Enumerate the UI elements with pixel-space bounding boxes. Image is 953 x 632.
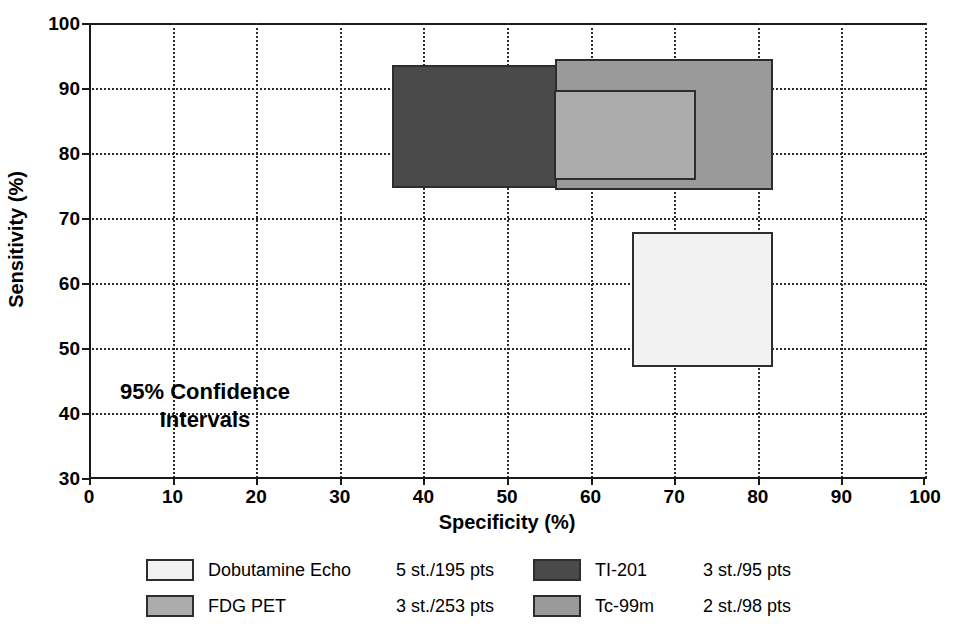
legend-swatch-dobutamine-echo xyxy=(146,559,194,581)
x-tick-10 xyxy=(173,478,175,485)
x-tick-label-80: 80 xyxy=(747,487,768,506)
x-tick-label-40: 40 xyxy=(413,487,434,506)
gridline-x-90 xyxy=(841,23,843,478)
x-tick-30 xyxy=(340,478,342,485)
y-tick-label-90: 90 xyxy=(59,79,80,98)
legend-item-fdg-pet[interactable]: FDG PET 3 st./253 pts xyxy=(146,588,494,624)
y-tick-label-50: 50 xyxy=(59,339,80,358)
x-tick-50 xyxy=(507,478,509,485)
ci-box-dobutamine-echo xyxy=(632,232,772,367)
x-tick-label-30: 30 xyxy=(329,487,350,506)
gridline-y-100 xyxy=(89,23,925,25)
x-tick-label-10: 10 xyxy=(162,487,183,506)
y-tick-70 xyxy=(82,218,89,220)
y-tick-label-70: 70 xyxy=(59,209,80,228)
annotation-line-2: Intervals xyxy=(60,406,350,434)
y-tick-label-80: 80 xyxy=(59,144,80,163)
gridline-x-100 xyxy=(925,23,927,478)
legend-swatch-fdg-pet xyxy=(146,595,194,617)
y-axis-title: Sensitivity (%) xyxy=(5,120,28,360)
x-axis-title: Specificity (%) xyxy=(89,511,925,534)
x-tick-80 xyxy=(758,478,760,485)
x-tick-label-20: 20 xyxy=(246,487,267,506)
y-tick-60 xyxy=(82,283,89,285)
legend-label-dobutamine-echo: Dobutamine Echo xyxy=(208,560,396,581)
y-tick-90 xyxy=(82,88,89,90)
y-tick-50 xyxy=(82,348,89,350)
x-tick-40 xyxy=(423,478,425,485)
y-tick-label-30: 30 xyxy=(59,469,80,488)
gridline-y-60 xyxy=(89,283,925,285)
x-tick-70 xyxy=(674,478,676,485)
gridline-y-50 xyxy=(89,348,925,350)
y-tick-label-100: 100 xyxy=(48,14,80,33)
x-tick-label-60: 60 xyxy=(580,487,601,506)
x-tick-label-90: 90 xyxy=(831,487,852,506)
y-tick-100 xyxy=(82,23,89,25)
legend-item-ti-201[interactable]: TI-201 3 st./95 pts xyxy=(533,552,791,588)
legend-label-ti-201: TI-201 xyxy=(595,560,703,581)
legend-column-left: Dobutamine Echo 5 st./195 pts FDG PET 3 … xyxy=(146,552,494,624)
x-axis-line xyxy=(89,477,927,479)
legend-item-dobutamine-echo[interactable]: Dobutamine Echo 5 st./195 pts xyxy=(146,552,494,588)
x-tick-20 xyxy=(256,478,258,485)
legend-stats-tc-99m: 2 st./98 pts xyxy=(703,596,791,617)
chart-area: 100 90 80 70 60 50 40 30 0 10 20 30 40 5… xyxy=(0,0,953,545)
confidence-interval-annotation: 95% Confidence Intervals xyxy=(60,378,350,434)
x-tick-label-0: 0 xyxy=(84,487,95,506)
legend-swatch-ti-201 xyxy=(533,559,581,581)
legend-stats-dobutamine-echo: 5 st./195 pts xyxy=(396,560,494,581)
x-tick-label-70: 70 xyxy=(664,487,685,506)
legend-swatch-tc-99m xyxy=(533,595,581,617)
ci-box-fdg-pet xyxy=(554,90,696,180)
y-tick-label-60: 60 xyxy=(59,274,80,293)
legend-item-tc-99m[interactable]: Tc-99m 2 st./98 pts xyxy=(533,588,791,624)
legend: Dobutamine Echo 5 st./195 pts FDG PET 3 … xyxy=(0,552,953,632)
y-tick-30 xyxy=(82,478,89,480)
legend-label-tc-99m: Tc-99m xyxy=(595,596,703,617)
legend-label-fdg-pet: FDG PET xyxy=(208,596,396,617)
x-tick-100 xyxy=(923,478,925,485)
x-tick-60 xyxy=(591,478,593,485)
gridline-y-70 xyxy=(89,218,925,220)
y-tick-80 xyxy=(82,153,89,155)
legend-column-right: TI-201 3 st./95 pts Tc-99m 2 st./98 pts xyxy=(533,552,791,624)
x-tick-label-100: 100 xyxy=(909,487,941,506)
x-tick-90 xyxy=(841,478,843,485)
legend-stats-ti-201: 3 st./95 pts xyxy=(703,560,791,581)
legend-stats-fdg-pet: 3 st./253 pts xyxy=(396,596,494,617)
x-tick-label-50: 50 xyxy=(496,487,517,506)
annotation-line-1: 95% Confidence xyxy=(60,378,350,406)
